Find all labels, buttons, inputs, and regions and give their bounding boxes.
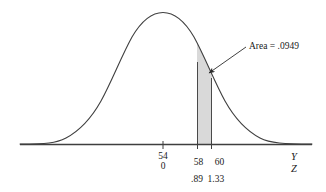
- tick-label-group-interval: 5860 .891.33: [186, 152, 232, 186]
- tick-row-z-values: .891.33: [186, 169, 232, 186]
- tick-label-group-center: 54 0: [143, 152, 183, 172]
- annotation-leader-arrow: [209, 47, 246, 73]
- tick-label-y-60: 60: [209, 158, 230, 168]
- tick-label-z-089: .89: [187, 175, 208, 185]
- axis-name-z: Z: [291, 163, 297, 174]
- axis-name-y: Y: [291, 151, 297, 162]
- normal-curve: [20, 13, 312, 145]
- tick-label-z-0: 0: [143, 162, 183, 172]
- tick-label-z-133: 1.33: [208, 175, 232, 185]
- tick-row-y-values: 5860: [186, 152, 232, 169]
- area-annotation-label: Area = .0949: [249, 41, 299, 51]
- shaded-area-region: [20, 13, 312, 145]
- tick-label-y-58: 58: [188, 158, 209, 168]
- normal-distribution-figure: 54 0 5860 .891.33 Y Z Area = .0949: [0, 0, 326, 192]
